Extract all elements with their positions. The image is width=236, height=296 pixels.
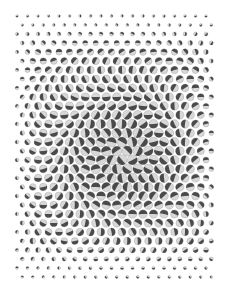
sphere-dot [102, 75, 110, 83]
sphere-dot [123, 93, 132, 102]
sphere-dot [155, 219, 163, 227]
sphere-dot [176, 75, 184, 83]
sphere-dot [96, 137, 106, 147]
sphere-dot [125, 257, 129, 261]
sphere-dot [110, 266, 113, 269]
sphere-dot [70, 165, 79, 174]
sphere-dot [76, 84, 84, 92]
sphere-dot [96, 173, 105, 182]
sphere-dot [87, 49, 94, 56]
sphere-dot [91, 164, 100, 173]
sphere-dot [134, 75, 142, 83]
sphere-dot [39, 183, 47, 191]
sphere-dot [72, 40, 77, 45]
sphere-dot [97, 210, 105, 218]
sphere-dot [15, 32, 18, 35]
sphere-dot [37, 15, 40, 18]
sphere-dot [76, 156, 85, 165]
sphere-dot [165, 75, 173, 83]
sphere-dot [58, 15, 61, 18]
sphere-dot [192, 120, 200, 128]
sphere-dot [30, 220, 36, 226]
sphere-dot [161, 247, 167, 253]
sphere-dot [102, 182, 111, 191]
sphere-dot [139, 102, 148, 111]
sphere-dot [99, 266, 102, 269]
sphere-dot [156, 40, 161, 45]
sphere-dot [70, 129, 79, 138]
sphere-dot [97, 228, 105, 236]
sphere-dot [160, 102, 168, 110]
sphere-dot [176, 183, 184, 191]
sphere-dot [61, 75, 68, 82]
sphere-dot [61, 219, 69, 227]
sphere-dot [161, 49, 167, 55]
halftone-sphere-pattern [0, 0, 236, 296]
sphere-dot [173, 15, 176, 18]
sphere-dot [176, 238, 183, 245]
sphere-dot [192, 228, 199, 235]
sphere-dot [86, 84, 94, 92]
sphere-dot [88, 32, 92, 36]
sphere-dot [112, 93, 121, 102]
sphere-dot [107, 137, 117, 147]
sphere-dot [93, 40, 98, 45]
sphere-dot [197, 165, 204, 172]
sphere-dot [29, 184, 36, 191]
sphere-dot [65, 120, 73, 128]
sphere-dot [128, 210, 137, 219]
sphere-dot [120, 266, 123, 269]
sphere-dot [188, 41, 193, 46]
sphere-dot [203, 193, 209, 199]
sphere-dot [20, 113, 25, 118]
sphere-dot [35, 85, 42, 92]
sphere-dot [105, 276, 108, 279]
sphere-dot [105, 24, 108, 27]
sphere-dot [209, 257, 213, 261]
sphere-dot [92, 75, 100, 83]
sphere-dot [30, 202, 37, 209]
sphere-dot [20, 203, 25, 208]
sphere-dot [83, 40, 88, 45]
sphere-dot [173, 32, 177, 36]
sphere-dot [94, 276, 97, 279]
sphere-dot [40, 219, 47, 226]
sphere-dot [35, 229, 42, 236]
sphere-dot [123, 201, 132, 210]
sphere-dot [104, 257, 108, 261]
sphere-dot [176, 129, 185, 138]
sphere-dot [128, 137, 138, 147]
sphere-dot [170, 156, 179, 165]
sphere-dot [155, 201, 164, 210]
sphere-dot [82, 237, 89, 244]
sphere-dot [71, 183, 80, 192]
sphere-dot [126, 276, 129, 279]
sphere-dot [170, 192, 178, 200]
sphere-dot [20, 77, 24, 81]
sphere-dot [209, 185, 214, 190]
sphere-dot [128, 84, 136, 92]
sphere-dot [100, 15, 103, 18]
sphere-dot [203, 175, 209, 181]
sphere-dot [123, 110, 132, 119]
sphere-dot [81, 146, 90, 155]
sphere-dot [170, 138, 179, 147]
sphere-dot [76, 192, 85, 201]
sphere-dot [86, 210, 94, 218]
sphere-dot [209, 59, 213, 63]
sphere-dot [66, 49, 72, 55]
sphere-dot [81, 111, 90, 120]
sphere-dot [178, 257, 182, 261]
sphere-dot [76, 66, 83, 73]
sphere-dot [60, 93, 68, 101]
sphere-dot [133, 128, 143, 138]
sphere-dot [209, 77, 213, 81]
sphere-dot [117, 137, 127, 147]
sphere-dot [15, 230, 19, 234]
sphere-dot [25, 193, 31, 199]
sphere-dot [20, 131, 25, 136]
sphere-dot [197, 129, 204, 136]
sphere-dot [203, 229, 208, 234]
sphere-dot [175, 147, 184, 156]
sphere-dot [97, 192, 106, 201]
